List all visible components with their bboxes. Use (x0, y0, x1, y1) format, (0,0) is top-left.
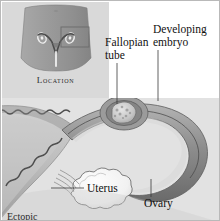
figure-caption: Ectopic (7, 211, 157, 221)
label-uterus: Uterus (87, 182, 118, 195)
inset-caption-label: Location (2, 75, 109, 85)
pelvis-silhouette-diagram (2, 2, 109, 76)
navel-mark (54, 10, 58, 12)
ectopic-pregnancy-illustration (2, 98, 219, 220)
label-developing-embryo: Developing embryo (153, 23, 207, 48)
label-ovary: Ovary (144, 197, 173, 210)
figure-panel: Location (0, 0, 220, 221)
label-fallopian-tube: Fallopian tube (105, 36, 148, 61)
main-illustration-panel (2, 98, 219, 220)
location-inset-panel: Location (2, 2, 109, 98)
developing-embryo (112, 102, 136, 123)
